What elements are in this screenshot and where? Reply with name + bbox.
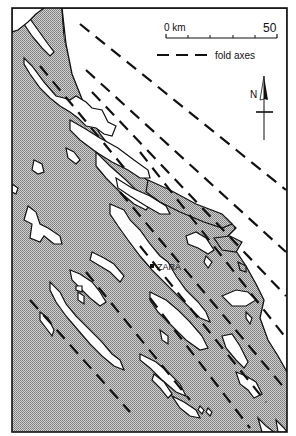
geologic-map: 0 km 50 fold axes N ZARA [0, 0, 296, 436]
zara-marker-icon [150, 264, 154, 268]
scale-start-label: 0 km [164, 22, 186, 33]
fold-axes-label: fold axes [215, 50, 255, 61]
scale-end-label: 50 [263, 21, 277, 35]
zara-label: ZARA [157, 262, 181, 272]
north-label: N [250, 89, 257, 100]
